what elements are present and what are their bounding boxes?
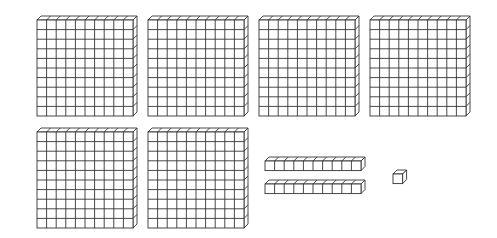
hundreds-flat <box>37 16 137 116</box>
hundreds-flat <box>259 16 359 116</box>
hundreds-flat <box>370 16 470 116</box>
tens-rod <box>265 157 365 171</box>
unit-cube <box>393 170 407 184</box>
tens-rod <box>265 180 365 194</box>
hundreds-flat <box>148 128 248 228</box>
hundreds-flat <box>37 128 137 228</box>
hundreds-flat <box>148 16 248 116</box>
base-ten-blocks-diagram <box>0 0 497 238</box>
